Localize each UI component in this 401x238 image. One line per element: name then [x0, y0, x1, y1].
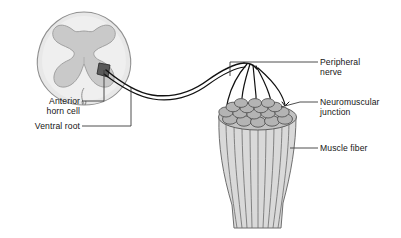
- spinal-cord-cross-section: [37, 12, 130, 105]
- label-anterior-horn-cell-line1: Anterior: [18, 96, 80, 106]
- label-neuromuscular-junction-line2: junction: [320, 107, 400, 117]
- label-peripheral-nerve-line1: Peripheral: [320, 57, 398, 67]
- anterior-horn-cell-marker: [97, 63, 110, 77]
- motor-unit-diagram: [0, 0, 401, 238]
- label-anterior-horn-cell-line2: horn cell: [18, 106, 80, 116]
- muscle-bundle-body: [219, 117, 296, 228]
- label-neuromuscular-junction-line1: Neuromuscular: [320, 97, 400, 107]
- label-ventral-root: Ventral root: [6, 121, 80, 131]
- muscle-bundle: [219, 99, 297, 228]
- label-muscle-fiber: Muscle fiber: [320, 143, 396, 153]
- label-anterior-horn-cell: Anterior horn cell: [18, 96, 80, 117]
- label-peripheral-nerve: Peripheral nerve: [320, 57, 398, 78]
- muscle-fiber-ends: [219, 99, 293, 128]
- label-peripheral-nerve-line2: nerve: [320, 67, 398, 77]
- label-neuromuscular-junction: Neuromuscular junction: [320, 97, 400, 118]
